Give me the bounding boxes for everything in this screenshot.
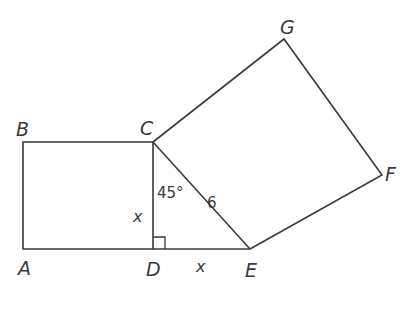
point-label-g: G [280, 16, 295, 38]
hypotenuse-label: 6 [207, 194, 217, 212]
point-label-c: C [140, 117, 154, 139]
side-cd-label: x [132, 207, 143, 226]
square-cefg [153, 39, 382, 249]
point-label-d: D [146, 258, 161, 280]
point-label-e: E [245, 259, 257, 281]
side-de-label: x [195, 257, 206, 276]
point-label-f: F [385, 163, 397, 185]
point-label-a: A [16, 257, 31, 279]
square-abcd [23, 142, 153, 249]
point-label-b: B [16, 118, 29, 140]
right-angle-mark [153, 237, 165, 249]
geometry-diagram: B C A D E F G 45° 6 x x [0, 0, 414, 315]
angle-label: 45° [157, 184, 184, 202]
